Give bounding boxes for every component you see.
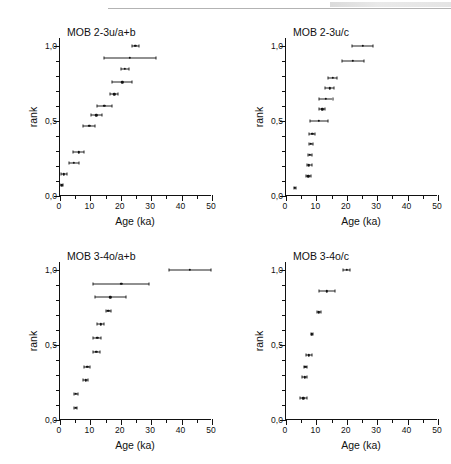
x-tick-label: 10 bbox=[311, 425, 321, 435]
y-tick-minor bbox=[56, 405, 60, 406]
error-bar-cap bbox=[301, 376, 302, 379]
y-tick-minor bbox=[56, 61, 60, 62]
error-bar-cap bbox=[73, 151, 74, 154]
x-tick-label: 30 bbox=[371, 425, 381, 435]
x-tick-label: 40 bbox=[402, 425, 412, 435]
error-bar-cap bbox=[310, 175, 311, 178]
x-tick-label: 10 bbox=[311, 201, 321, 211]
error-bar-cap bbox=[318, 97, 319, 100]
x-axis-title: Age (ka) bbox=[341, 439, 381, 451]
panel-title: MOB 2-3u/c bbox=[293, 26, 349, 38]
panel-title: MOB 3-4o/a+b bbox=[67, 250, 136, 262]
y-tick-minor bbox=[56, 300, 60, 301]
error-bar-cap bbox=[350, 268, 351, 271]
error-bar-cap bbox=[110, 93, 111, 96]
plot-area bbox=[285, 262, 437, 420]
error-bar-cap bbox=[324, 108, 325, 111]
y-tick-minor bbox=[282, 136, 286, 137]
y-tick-minor bbox=[56, 315, 60, 316]
error-bar-cap bbox=[103, 56, 104, 59]
error-bar-cap bbox=[82, 379, 83, 382]
error-bar-cap bbox=[77, 406, 78, 409]
y-tick-minor bbox=[282, 106, 286, 107]
error-bar-cap bbox=[312, 153, 313, 156]
error-bar-cap bbox=[129, 67, 130, 70]
error-bar-cap bbox=[97, 323, 98, 326]
error-bar-cap bbox=[309, 132, 310, 135]
x-tick-label: 30 bbox=[371, 201, 381, 211]
x-tick-minor bbox=[423, 419, 424, 423]
x-axis-title: Age (ka) bbox=[341, 215, 381, 227]
x-axis-title: Age (ka) bbox=[115, 439, 155, 451]
error-bar-cap bbox=[296, 186, 297, 189]
x-tick-label: 20 bbox=[115, 201, 125, 211]
y-tick-minor bbox=[56, 151, 60, 152]
error-bar-cap bbox=[90, 365, 91, 368]
x-tick-label: 30 bbox=[145, 201, 155, 211]
x-tick-minor bbox=[301, 419, 302, 423]
x-tick-label: 0 bbox=[283, 201, 288, 211]
error-bar-cap bbox=[126, 296, 127, 299]
error-bar-cap bbox=[363, 59, 364, 62]
error-bar-cap bbox=[327, 76, 328, 79]
x-tick-minor bbox=[392, 195, 393, 199]
y-tick-minor bbox=[282, 151, 286, 152]
y-tick-minor bbox=[282, 300, 286, 301]
y-tick-minor bbox=[282, 91, 286, 92]
error-bar-cap bbox=[93, 350, 94, 353]
y-tick-minor bbox=[282, 390, 286, 391]
x-tick-label: 20 bbox=[341, 201, 351, 211]
error-bar-cap bbox=[112, 81, 113, 84]
y-tick-minor bbox=[282, 76, 286, 77]
x-tick-label: 10 bbox=[85, 425, 95, 435]
error-bar-cap bbox=[311, 164, 312, 167]
x-tick-label: 50 bbox=[206, 425, 216, 435]
y-tick-minor bbox=[282, 285, 286, 286]
error-bar-cap bbox=[156, 56, 157, 59]
x-tick-minor bbox=[423, 195, 424, 199]
error-bar-cap bbox=[327, 119, 328, 122]
error-bar-cap bbox=[306, 365, 307, 368]
x-tick-minor bbox=[301, 195, 302, 199]
error-bar-cap bbox=[104, 323, 105, 326]
y-tick-minor bbox=[282, 330, 286, 331]
x-tick-label: 50 bbox=[206, 201, 216, 211]
error-bar-cap bbox=[334, 290, 335, 293]
error-bar-cap bbox=[61, 173, 62, 176]
y-tick-minor bbox=[56, 106, 60, 107]
error-bar-cap bbox=[94, 296, 95, 299]
y-tick-minor bbox=[56, 390, 60, 391]
x-tick-label: 0 bbox=[283, 425, 288, 435]
x-tick-label: 0 bbox=[57, 425, 62, 435]
error-bar-cap bbox=[334, 87, 335, 90]
panel-title: MOB 2-3u/a+b bbox=[67, 26, 136, 38]
error-bar-cap bbox=[110, 309, 111, 312]
error-bar-cap bbox=[352, 44, 353, 47]
y-tick-minor bbox=[282, 360, 286, 361]
error-bar-cap bbox=[66, 173, 67, 176]
y-tick-label: 0,5 bbox=[0, 116, 283, 126]
error-bar-cap bbox=[307, 376, 308, 379]
error-bar-cap bbox=[99, 350, 100, 353]
panel-title: MOB 3-4o/c bbox=[293, 250, 349, 262]
x-tick-label: 0 bbox=[57, 201, 62, 211]
y-tick-minor bbox=[56, 285, 60, 286]
error-bar-cap bbox=[88, 379, 89, 382]
error-bar-cap bbox=[311, 354, 312, 357]
y-tick-label: 0,0 bbox=[0, 415, 283, 425]
error-bar-cap bbox=[313, 143, 314, 146]
y-tick-minor bbox=[56, 91, 60, 92]
x-tick-label: 10 bbox=[85, 201, 95, 211]
x-tick-label: 20 bbox=[341, 425, 351, 435]
x-tick-minor bbox=[332, 419, 333, 423]
error-bar-cap bbox=[325, 87, 326, 90]
error-bar-cap bbox=[320, 311, 321, 314]
y-axis-title: rank bbox=[253, 107, 265, 127]
error-bar-cap bbox=[132, 81, 133, 84]
error-bar-cap bbox=[84, 151, 85, 154]
error-bar-cap bbox=[309, 119, 310, 122]
x-tick-label: 40 bbox=[402, 201, 412, 211]
y-axis-title: rank bbox=[253, 331, 265, 351]
y-tick-minor bbox=[282, 61, 286, 62]
scan-artifact-bar bbox=[330, 2, 451, 7]
